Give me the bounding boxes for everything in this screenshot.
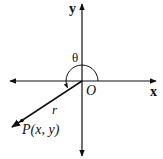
theta-label: θ bbox=[72, 51, 78, 64]
polar-diagram: y x O θ r P(x, y) bbox=[0, 0, 163, 159]
origin-label: O bbox=[86, 84, 96, 98]
x-axis-label: x bbox=[150, 85, 157, 99]
y-axis-label: y bbox=[69, 2, 76, 16]
radius-label: r bbox=[52, 103, 57, 116]
point-p-label: P(x, y) bbox=[22, 123, 59, 137]
